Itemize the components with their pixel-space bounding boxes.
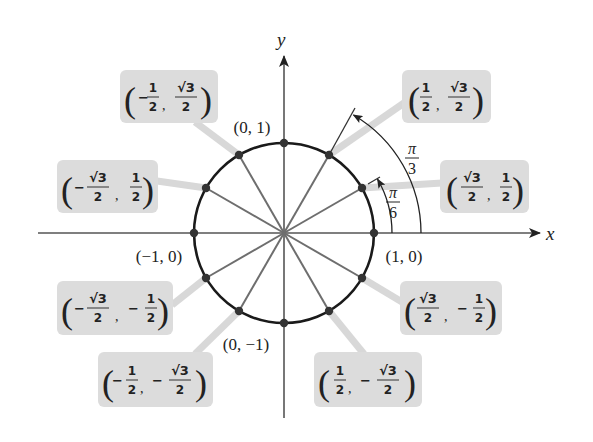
svg-text:): ): [142, 170, 154, 210]
callout-q1-60: ( 1 2 , √3 2 ): [402, 70, 491, 123]
spoke-60: [284, 155, 329, 233]
leader-q4-300: [329, 311, 364, 354]
y-axis-label: y: [275, 29, 286, 50]
spoke-120: [239, 155, 284, 233]
svg-text:2: 2: [502, 190, 510, 204]
svg-text:√3: √3: [89, 170, 107, 185]
svg-text:−: −: [74, 180, 85, 195]
point-180: [190, 229, 198, 237]
svg-text:−: −: [112, 373, 123, 388]
x-axis-label: x: [545, 223, 555, 244]
point-150: [202, 184, 210, 192]
svg-text:,: ,: [162, 98, 166, 113]
svg-text:√3: √3: [450, 80, 468, 95]
label-point-270: (0, −1): [223, 335, 269, 354]
svg-text:): ): [195, 363, 207, 403]
svg-text:(: (: [124, 80, 136, 120]
svg-text:): ): [404, 363, 416, 403]
leader-q3-210: [172, 278, 206, 305]
svg-text:−: −: [360, 373, 371, 388]
svg-text:(: (: [408, 80, 420, 120]
svg-text:√3: √3: [419, 291, 437, 306]
svg-text:2: 2: [149, 100, 157, 114]
leader-q4-330: [362, 278, 402, 302]
svg-text:(: (: [61, 170, 73, 210]
svg-text:2: 2: [128, 383, 136, 397]
svg-text:2: 2: [132, 190, 140, 204]
svg-text:2: 2: [384, 383, 392, 397]
svg-text:1: 1: [128, 364, 136, 378]
svg-text:): ): [200, 80, 212, 120]
svg-text:1: 1: [147, 292, 155, 306]
callout-q3-240: ( − 1 2 , − √3 2 ): [98, 352, 213, 407]
spoke-240: [239, 233, 284, 311]
angle-label-pi-over-3: π 3: [405, 140, 419, 177]
spoke-330: [284, 233, 362, 278]
label-point-180: (−1, 0): [136, 247, 182, 266]
spoke-300: [284, 233, 329, 311]
svg-text:2: 2: [422, 100, 430, 114]
leader-q1-60: [329, 103, 404, 155]
svg-text:2: 2: [182, 100, 190, 114]
label-point-90: (0, 1): [234, 118, 271, 137]
svg-text:,: ,: [140, 381, 144, 396]
leader-q1-30: [362, 183, 442, 188]
unit-circle-diagram: x y π 6 π 3: [0, 0, 593, 442]
point-0: [370, 229, 378, 237]
svg-text:2: 2: [94, 190, 102, 204]
svg-text:3: 3: [408, 160, 416, 177]
label-point-0: (1, 0): [386, 247, 423, 266]
svg-text:2: 2: [455, 100, 463, 114]
point-300: [325, 307, 333, 315]
leader-q2-120: [195, 122, 239, 155]
callout-q2-120: ( − 1 2 , √3 2 ): [120, 70, 218, 123]
svg-text:): ): [512, 170, 524, 210]
svg-text:6: 6: [389, 204, 397, 221]
svg-text:): ): [485, 291, 497, 331]
svg-text:): ): [472, 80, 484, 120]
point-30: [358, 184, 366, 192]
svg-text:π: π: [389, 184, 398, 201]
svg-text:2: 2: [424, 311, 432, 325]
point-330: [358, 274, 366, 282]
callout-q3-210: ( − √3 2 , − 1 2 ): [57, 281, 173, 335]
point-90: [280, 139, 288, 147]
svg-text:2: 2: [94, 311, 102, 325]
svg-text:√3: √3: [89, 291, 107, 306]
spoke-150: [206, 188, 284, 233]
point-120: [235, 151, 243, 159]
svg-text:1: 1: [336, 364, 344, 378]
svg-text:√3: √3: [379, 363, 397, 378]
svg-text:√3: √3: [463, 170, 481, 185]
svg-text:,: ,: [115, 309, 119, 324]
point-60: [325, 151, 333, 159]
svg-text:2: 2: [475, 311, 483, 325]
callout-q4-330: ( √3 2 , − 1 2 ): [400, 281, 502, 335]
svg-text:,: ,: [444, 309, 448, 324]
callout-q2-150: ( − √3 2 , 1 2 ): [57, 160, 158, 213]
svg-text:(: (: [404, 291, 416, 331]
angle-label-pi-over-6: π 6: [386, 184, 400, 221]
svg-text:2: 2: [336, 383, 344, 397]
svg-text:(: (: [446, 170, 458, 210]
svg-text:,: ,: [348, 381, 352, 396]
callout-q4-300: ( 1 2 , − √3 2 ): [314, 352, 422, 407]
svg-text:,: ,: [487, 188, 491, 203]
svg-text:2: 2: [147, 311, 155, 325]
svg-text:2: 2: [468, 190, 476, 204]
svg-text:π: π: [408, 140, 417, 157]
svg-text:√3: √3: [171, 363, 189, 378]
point-240: [235, 307, 243, 315]
svg-text:−: −: [457, 301, 468, 316]
spoke-210: [206, 233, 284, 278]
svg-text:−: −: [152, 373, 163, 388]
svg-text:(: (: [61, 291, 73, 331]
point-210: [202, 274, 210, 282]
svg-text:−: −: [74, 301, 85, 316]
svg-text:√3: √3: [177, 80, 195, 95]
svg-text:1: 1: [149, 81, 157, 95]
svg-text:−: −: [128, 301, 139, 316]
svg-text:1: 1: [132, 171, 140, 185]
callout-q1-30: ( √3 2 , 1 2 ): [440, 160, 529, 213]
svg-text:1: 1: [502, 171, 510, 185]
